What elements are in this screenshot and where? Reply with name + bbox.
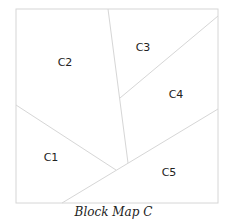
block-map-diagram <box>0 0 227 223</box>
region-label-c4: C4 <box>169 89 184 100</box>
region-label-c5: C5 <box>162 167 177 178</box>
divider-c3-c4 <box>120 16 218 98</box>
map-frame <box>16 9 218 203</box>
divider-c1-c2 <box>16 105 116 170</box>
region-label-c3: C3 <box>136 42 151 53</box>
divider-c2-c3-c4 <box>108 9 128 163</box>
region-label-c2: C2 <box>58 57 73 68</box>
map-caption: Block Map C <box>0 204 227 220</box>
divider-c4-c5-c1 <box>62 109 218 203</box>
region-label-c1: C1 <box>44 152 59 163</box>
